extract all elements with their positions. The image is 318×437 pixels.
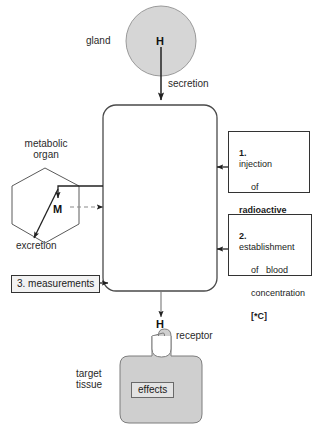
target-tissue-label-line2: tissue: [76, 379, 102, 390]
target-hormone-symbol: H: [156, 318, 164, 330]
metabolic-organ-hexagon: [12, 168, 79, 243]
step-1-line-2: of: [251, 182, 259, 192]
blood-compartment-box: [103, 105, 217, 291]
step-2-number: 2.: [239, 231, 247, 241]
gland-hormone-symbol: H: [156, 35, 164, 47]
step-3-measurements-box: 3. measurements: [11, 275, 100, 293]
metabolic-organ-label-line1: metabolic: [14, 138, 78, 149]
step-1-number: 1.: [239, 148, 247, 158]
step-1-box: 1. injection of radioactive tracer *H: [228, 131, 310, 193]
step-1-line-1: injection: [239, 159, 272, 169]
step-2-line-4: [*C]: [251, 311, 267, 321]
step-2-line-1: establishment: [239, 242, 295, 252]
gland-label: gland: [86, 35, 110, 46]
effects-box: effects: [131, 382, 174, 398]
secretion-label: secretion: [168, 78, 209, 89]
step-2-line-2: of blood: [251, 265, 288, 275]
excretion-label: excretion: [16, 240, 57, 251]
step-2-line-3: concentration: [251, 288, 305, 298]
receptor-notch: [152, 336, 171, 357]
metabolic-organ-label-line2: organ: [14, 149, 78, 160]
metabolite-symbol: M: [53, 203, 62, 215]
target-tissue-label-line1: target: [76, 368, 102, 379]
receptor-label: receptor: [176, 330, 213, 341]
step-2-box: 2. establishment of blood concentration …: [228, 214, 312, 276]
